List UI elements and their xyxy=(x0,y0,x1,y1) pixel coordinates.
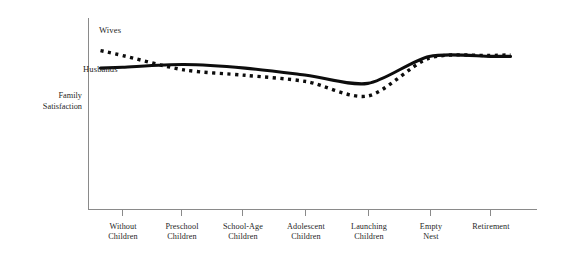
x-axis-label-empty-nest: Empty Nest xyxy=(403,222,459,243)
series-label-husbands: Husbands xyxy=(83,64,118,74)
family-satisfaction-line-chart: Family Satisfaction Wives Husbands Witho… xyxy=(0,0,564,257)
chart-plot-area xyxy=(0,0,564,257)
x-axis-label-launching-children: Launching Children xyxy=(338,222,400,243)
chart-axes xyxy=(89,18,538,216)
series-label-wives: Wives xyxy=(99,25,121,35)
x-axis-label-retirement: Retirement xyxy=(461,222,521,232)
series-line-wives xyxy=(101,51,511,97)
series-line-husbands xyxy=(101,55,511,84)
axis-lines xyxy=(89,18,538,210)
x-axis-label-school-age-children: School-Age Children xyxy=(210,222,276,243)
y-axis-title: Family Satisfaction xyxy=(30,91,82,112)
x-axis-label-preschool-children: Preschool Children xyxy=(152,222,212,243)
x-axis-label-adolescent-children: Adolescent Children xyxy=(274,222,338,243)
x-axis-label-without-children: Without Children xyxy=(93,222,153,243)
